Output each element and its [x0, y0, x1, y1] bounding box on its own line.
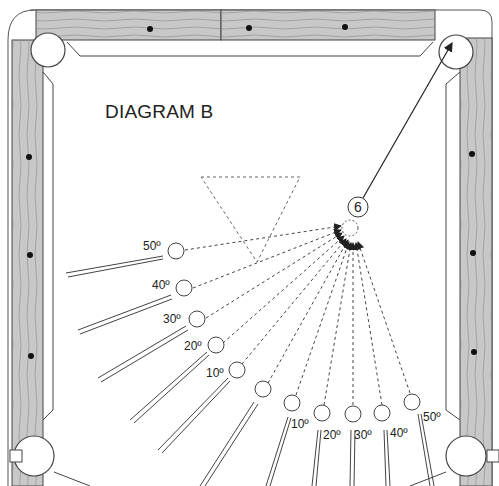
right-rail	[460, 38, 492, 486]
left-rail	[12, 40, 43, 486]
angle-label: 40º	[152, 278, 170, 292]
angle-label: 50º	[423, 410, 441, 424]
bottom-group	[266, 242, 434, 486]
pool-table-diagram: DIAGRAM B 6 50º 40º 30º 20º 10º 10º 20º …	[0, 0, 499, 486]
angle-label: 30º	[354, 428, 372, 442]
angle-label: 30º	[163, 312, 181, 326]
left-group	[66, 226, 348, 486]
angle-label: 10º	[206, 366, 224, 380]
angle-label: 40º	[390, 426, 408, 440]
angle-label: 20º	[184, 339, 202, 353]
top-rail	[36, 10, 435, 40]
angle-label: 10º	[291, 417, 309, 431]
object-ball-label: 6	[348, 197, 368, 217]
angle-label: 20º	[323, 428, 341, 442]
angle-label: 50º	[143, 239, 161, 253]
diagram-title: DIAGRAM B	[105, 101, 213, 123]
